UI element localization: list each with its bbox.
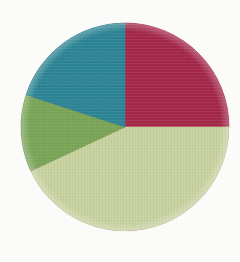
chart-area [0,0,240,262]
pie-chart-svg [0,0,240,262]
pie-chart-figure [0,0,240,262]
pie-edge-softening [21,23,229,231]
